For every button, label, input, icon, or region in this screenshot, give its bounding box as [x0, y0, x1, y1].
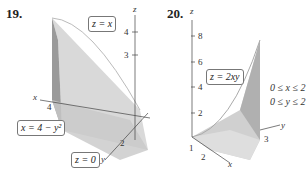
figure-19-number: 19. — [6, 6, 22, 22]
figure-20-x-tick-1: 1 — [189, 143, 194, 153]
figure-19-y-tick-2: 2 — [120, 138, 125, 148]
figure-20-z-tick-8: 8 — [198, 31, 203, 41]
constraint-y-range: 0 ≤ y ≤ 2 — [270, 96, 305, 107]
figure-20-number: 20. — [167, 6, 183, 22]
callout-z-equals-x: z = x — [88, 16, 116, 32]
figure-20-y-tick-3: 3 — [264, 134, 269, 144]
figure-20-z-tick-2: 2 — [198, 108, 203, 118]
figure-19-z-axis-label: z — [133, 4, 137, 14]
figure-20-z-axis-label: z — [190, 6, 194, 16]
figure-19-x-tick-4: 4 — [47, 102, 52, 112]
callout-x-equals-4-minus-y-squared: x = 4 − y² — [17, 120, 65, 136]
figure-20-y-axis-label: y — [281, 120, 285, 130]
figure-19-z-tick-3: 3 — [124, 50, 129, 60]
figure-19-surface — [52, 18, 148, 160]
figure-19-z-tick-4: 4 — [124, 27, 129, 37]
figure-20-z-tick-6: 6 — [198, 57, 203, 67]
figure-20-z-tick-4: 4 — [198, 82, 203, 92]
figures-drawing — [0, 0, 306, 173]
figure-19-x-axis-label: x — [33, 92, 37, 102]
figure-20-x-axis-label: x — [228, 159, 232, 169]
figure-20-x-tick-2: 2 — [201, 152, 206, 162]
figure-19-y-axis-label: y — [101, 154, 105, 164]
callout-z-equals-0: z = 0 — [71, 152, 100, 168]
callout-z-equals-2xy: z = 2xy — [206, 69, 244, 85]
constraint-x-range: 0 ≤ x ≤ 2 — [270, 82, 305, 93]
